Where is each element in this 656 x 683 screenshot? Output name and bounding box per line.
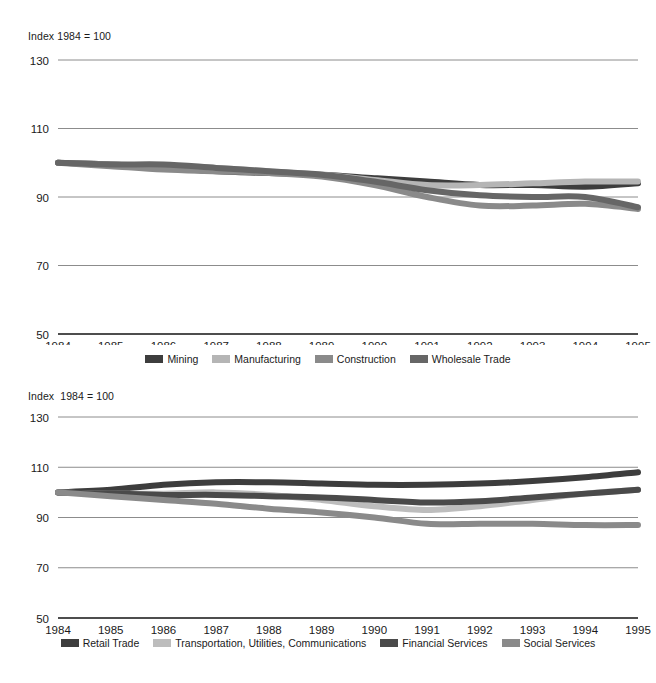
legend-bottom: Retail TradeTransportation, Utilities, C… [0,638,656,649]
legend-swatch-financial-services [380,639,398,647]
y-tick-label-90: 90 [36,192,49,204]
x-tick-label-1988: 1988 [256,624,282,636]
legend-item-retail-trade[interactable]: Retail Trade [61,638,140,649]
y-tick-label-130: 130 [30,55,49,67]
chart-page: Index 1984 = 100 50709011013019841985198… [0,0,656,683]
x-tick-label-1992: 1992 [467,624,493,636]
x-tick-label-1986: 1986 [151,624,177,636]
legend-swatch-transportation-utilities-communications [153,639,171,647]
line-chart-bottom: 5070901101301984198519861987198819891990… [0,345,656,683]
legend-label-social-services: Social Services [524,638,596,649]
legend-label-retail-trade: Retail Trade [83,638,140,649]
x-tick-label-1995: 1995 [625,624,651,636]
y-tick-label-70: 70 [36,260,49,272]
y-tick-label-110: 110 [31,123,49,135]
chart-panel-top: Index 1984 = 100 50709011013019841985198… [0,0,656,345]
legend-swatch-social-services [502,639,520,647]
x-tick-label-1984: 1984 [45,624,71,636]
y-tick-label-70: 70 [36,562,49,574]
x-tick-label-1994: 1994 [572,624,598,636]
legend-swatch-retail-trade [61,639,79,647]
legend-label-financial-services: Financial Services [402,638,487,649]
y-tick-label-110: 110 [31,462,49,474]
x-tick-label-1993: 1993 [520,624,546,636]
x-tick-label-1989: 1989 [309,624,335,636]
line-chart-top: 5070901101301984198519861987198819891990… [0,0,656,345]
y-tick-label-90: 90 [36,512,49,524]
legend-item-financial-services[interactable]: Financial Services [380,638,487,649]
legend-item-social-services[interactable]: Social Services [502,638,596,649]
x-tick-label-1991: 1991 [414,624,440,636]
y-tick-label-50: 50 [36,329,49,341]
y-tick-label-50: 50 [36,613,49,625]
legend-item-transportation-utilities-communications[interactable]: Transportation, Utilities, Communication… [153,638,366,649]
y-tick-label-130: 130 [30,412,49,424]
x-tick-label-1985: 1985 [98,624,124,636]
legend-label-transportation-utilities-communications: Transportation, Utilities, Communication… [175,638,366,649]
x-tick-label-1987: 1987 [203,624,229,636]
series-line-retail-trade [58,472,638,492]
x-tick-label-1990: 1990 [362,624,388,636]
chart-panel-bottom: Index 1984 = 100 50709011013019841985198… [0,345,656,683]
